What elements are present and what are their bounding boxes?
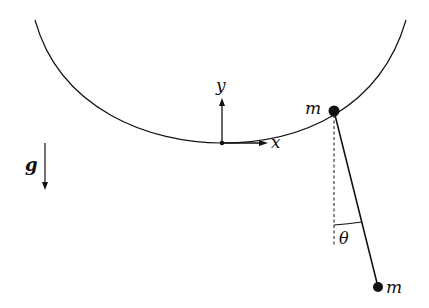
- y-arrowhead-icon: [219, 98, 225, 106]
- y-axis-label: y: [215, 75, 226, 95]
- x-axis-label: x: [271, 132, 281, 152]
- pendulum-diagram: y x g θ m m: [0, 0, 429, 308]
- angle-arc: [334, 222, 362, 225]
- gravity-label: g: [25, 154, 38, 175]
- lower-mass-label: m: [386, 277, 402, 297]
- diagram-canvas: y x g θ m m: [0, 0, 429, 308]
- upper-mass: [329, 106, 340, 117]
- upper-mass-label: m: [305, 98, 321, 118]
- angle-label: θ: [339, 229, 349, 248]
- gravity-arrowhead-icon: [42, 182, 48, 190]
- pendulum-rod: [334, 111, 378, 287]
- lower-mass: [373, 282, 383, 292]
- x-arrowhead-icon: [259, 140, 268, 146]
